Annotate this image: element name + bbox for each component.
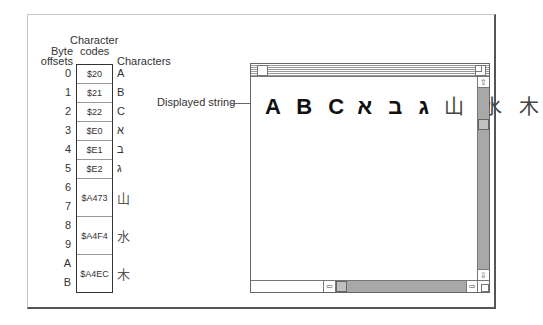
character-water: 水 <box>117 226 130 245</box>
offset-4: 4 <box>51 143 71 155</box>
code-cell: $A4F4 <box>77 217 112 255</box>
offset-2: 2 <box>51 105 71 117</box>
offset-6: 6 <box>51 181 71 193</box>
offset-1: 1 <box>51 86 71 98</box>
text-window: A B C ג ב א 山 水 木 ⇧ ⇩ ⇦ ⇨ <box>250 63 490 293</box>
character-tree: 木 <box>117 264 130 283</box>
vertical-scrollbar[interactable]: ⇧ ⇩ <box>477 77 489 280</box>
character-bet: ב <box>117 143 124 155</box>
offset-3: 3 <box>51 124 71 136</box>
displayed-string: A B C ג ב א 山 水 木 <box>265 95 543 119</box>
scroll-down-arrow-icon[interactable]: ⇩ <box>478 269 489 280</box>
vertical-scroll-thumb[interactable] <box>478 119 489 130</box>
offset-9: 9 <box>51 238 71 250</box>
character-mountain: 山 <box>117 188 130 207</box>
character-codes-header-line2: codes <box>80 45 109 57</box>
code-cell: $22 <box>77 103 112 122</box>
window-content[interactable]: A B C ג ב א 山 水 木 <box>251 77 477 280</box>
scroll-right-arrow-icon[interactable]: ⇨ <box>466 281 477 292</box>
character-gimel: ג <box>117 162 122 174</box>
displayed-hebrew: ג ב א <box>357 94 434 119</box>
grow-box-icon[interactable] <box>477 280 489 292</box>
close-box-icon[interactable] <box>257 65 268 76</box>
offset-8: 8 <box>51 219 71 231</box>
code-cell: $A473 <box>77 179 112 217</box>
offset-7: 7 <box>51 200 71 212</box>
character-c: C <box>117 105 125 117</box>
horizontal-scrollbar[interactable]: ⇦ ⇨ <box>251 280 477 292</box>
horizontal-scroll-thumb[interactable] <box>336 281 347 292</box>
character-alef: א <box>117 124 124 136</box>
horizontal-scroll-track[interactable]: ⇦ ⇨ <box>335 281 477 292</box>
displayed-string-label: Displayed string <box>157 96 235 108</box>
window-title-bar[interactable] <box>251 64 489 77</box>
byte-offsets-header-line2: offsets <box>40 55 73 67</box>
zoom-box-icon[interactable] <box>475 65 486 76</box>
offset-5: 5 <box>51 162 71 174</box>
characters-header: Characters <box>117 55 171 67</box>
offset-a: A <box>51 257 71 269</box>
displayed-cjk: 山 水 木 <box>444 96 543 118</box>
code-cell: $E2 <box>77 160 112 179</box>
code-cell: $21 <box>77 84 112 103</box>
scroll-left-arrow-icon[interactable]: ⇦ <box>323 281 336 292</box>
character-codes-table: $20 $21 $22 $E0 $E1 $E2 $A473 $A4F4 $A4E… <box>76 64 113 293</box>
displayed-latin: A B C <box>265 94 349 119</box>
code-cell: $A4EC <box>77 255 112 292</box>
scroll-up-arrow-icon[interactable]: ⇧ <box>478 77 489 88</box>
offset-0: 0 <box>51 67 71 79</box>
code-cell: $E1 <box>77 141 112 160</box>
offset-b: B <box>51 276 71 288</box>
character-b: B <box>117 86 124 98</box>
character-a: A <box>117 67 124 79</box>
code-cell: $E0 <box>77 122 112 141</box>
code-cell: $20 <box>77 65 112 84</box>
